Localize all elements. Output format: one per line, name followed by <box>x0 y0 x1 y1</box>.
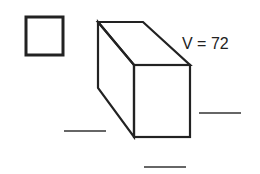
rectangular-prism <box>98 22 190 137</box>
prism-top-face <box>98 22 190 65</box>
volume-label: V = 72 <box>182 35 229 52</box>
prism-front-face <box>134 65 190 137</box>
prism-volume-diagram: V = 72 <box>0 0 260 174</box>
square-box-icon <box>26 17 63 55</box>
prism-side-face <box>98 22 134 137</box>
